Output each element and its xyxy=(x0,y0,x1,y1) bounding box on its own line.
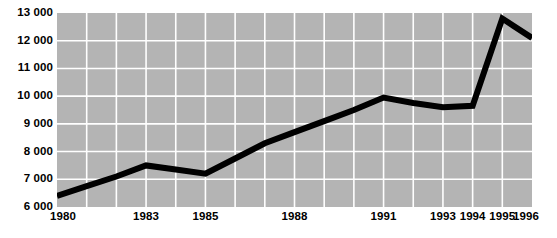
y-tick-label: 9 000 xyxy=(0,118,53,130)
plot-area xyxy=(57,13,532,207)
data-series-line xyxy=(57,13,532,207)
y-tick-label: 7 000 xyxy=(0,174,53,186)
series-polyline xyxy=(57,19,532,196)
x-tick-label: 1988 xyxy=(282,211,308,223)
x-tick-label: 1993 xyxy=(430,211,456,223)
y-tick-label: 6 000 xyxy=(0,201,53,213)
x-tick-label: 1995 xyxy=(489,211,515,223)
y-tick-label: 10 000 xyxy=(0,90,53,102)
x-tick-label: 1994 xyxy=(460,211,486,223)
x-tick-label: 1985 xyxy=(192,211,218,223)
x-tick-label: 1980 xyxy=(50,211,76,223)
y-tick-label: 13 000 xyxy=(0,7,53,19)
y-axis: 6 0007 0008 0009 00010 00011 00012 00013… xyxy=(0,13,53,207)
x-tick-label: 1983 xyxy=(133,211,159,223)
x-tick-label: 1991 xyxy=(371,211,397,223)
line-chart: 6 0007 0008 0009 00010 00011 00012 00013… xyxy=(0,0,557,238)
x-tick-label: 1996 xyxy=(513,211,539,223)
y-tick-label: 12 000 xyxy=(0,35,53,47)
y-tick-label: 11 000 xyxy=(0,63,53,75)
y-tick-label: 8 000 xyxy=(0,146,53,158)
x-axis: 198019831985198819911993199419951996 xyxy=(57,211,532,233)
